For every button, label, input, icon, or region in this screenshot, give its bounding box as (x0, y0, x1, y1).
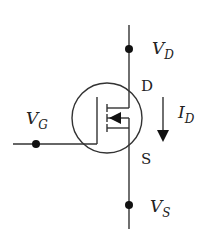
vd-label: VD (152, 38, 174, 62)
id-label: ID (177, 102, 195, 126)
gate-terminal-dot (32, 140, 40, 148)
source-terminal-dot (125, 201, 133, 209)
drain-letter: D (141, 77, 153, 95)
body-arrow-icon (109, 112, 121, 124)
source-letter: S (141, 150, 151, 168)
current-arrow-head-icon (157, 130, 169, 142)
drain-terminal-dot (125, 45, 133, 53)
vs-label: VS (150, 196, 171, 220)
vg-label: VG (26, 108, 48, 132)
mosfet-diagram: D S VD VG VS ID (0, 0, 204, 246)
